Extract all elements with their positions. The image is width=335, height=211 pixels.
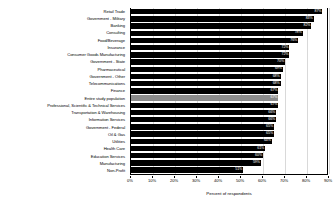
bar-value-label: 69% — [275, 68, 282, 72]
bar: 83% — [131, 16, 314, 21]
bar: 67% — [131, 88, 278, 93]
bar-row: 82% — [131, 23, 327, 28]
bar-row: 68% — [131, 81, 327, 86]
bar: 72% — [131, 45, 289, 50]
bar-value-label: 65% — [266, 132, 273, 136]
category-label: Oil & Gas — [0, 132, 127, 137]
bar-row: 78% — [131, 31, 327, 36]
category-label: Non-Profit — [0, 169, 127, 174]
x-axis: 0%10%20%30%40%50%60%70%80%90% — [130, 176, 328, 186]
category-label: Professional, Scientific & Technical Ser… — [0, 103, 127, 108]
bar-value-label: 64% — [264, 140, 271, 144]
x-axis-tick-label: 10% — [148, 179, 156, 183]
bar-row: 66% — [131, 117, 327, 122]
category-label: Government - Military — [0, 16, 127, 21]
bar: 68% — [131, 81, 281, 86]
bar-value-label: 67% — [270, 104, 277, 108]
bar: 87% — [131, 9, 322, 14]
bar: 67% — [131, 95, 278, 100]
x-axis-tick-label: 20% — [170, 179, 178, 183]
bar-row: 72% — [131, 52, 327, 57]
x-axis-title: Percent of respondents — [130, 191, 328, 196]
bar-rows: 87%83%82%78%76%72%72%70%69%68%68%67%67%6… — [131, 8, 327, 174]
bar: 70% — [131, 59, 285, 64]
bar-row: 87% — [131, 9, 327, 14]
category-label: Government - State — [0, 60, 127, 65]
bar-row: 66% — [131, 110, 327, 115]
category-label: Education Services — [0, 154, 127, 159]
bar-value-label: 78% — [295, 32, 302, 36]
category-label: Government - Federal — [0, 125, 127, 130]
bar-row: 65% — [131, 131, 327, 136]
bar-row: 67% — [131, 88, 327, 93]
bar-value-label: 82% — [303, 24, 310, 28]
category-label: Pharmaceutical — [0, 67, 127, 72]
bar-row: 69% — [131, 67, 327, 72]
category-label: Government - Other — [0, 74, 127, 79]
bar-value-label: 67% — [270, 89, 277, 93]
bar-row: 51% — [131, 167, 327, 172]
gridline — [329, 8, 330, 174]
category-label: Banking — [0, 24, 127, 29]
bar-value-label: 68% — [273, 82, 280, 86]
bar-value-label: 76% — [290, 39, 297, 43]
bar: 67% — [131, 103, 278, 108]
bar-value-label: 51% — [235, 168, 242, 172]
bar-value-label: 61% — [257, 147, 264, 151]
bar-value-label: 72% — [281, 53, 288, 57]
x-axis-tick-label: 80% — [302, 179, 310, 183]
bar-value-label: 66% — [268, 111, 275, 115]
bar-value-label: 72% — [281, 46, 288, 50]
x-axis-tick-label: 90% — [324, 179, 332, 183]
category-label: Transportation & Warehousing — [0, 111, 127, 116]
bar-value-label: 87% — [314, 10, 321, 14]
category-label: Finance — [0, 89, 127, 94]
category-label: Insurance — [0, 45, 127, 50]
bar-value-label: 68% — [273, 75, 280, 79]
bar: 65% — [131, 131, 274, 136]
bar-chart: Retail TradeGovernment - MilitaryBanking… — [0, 0, 335, 211]
bar-row: 61% — [131, 146, 327, 151]
bar: 72% — [131, 52, 289, 57]
plot-area: 87%83%82%78%76%72%72%70%69%68%68%67%67%6… — [130, 8, 328, 175]
category-label: Telecommunications — [0, 82, 127, 87]
bar: 60% — [131, 153, 263, 158]
bar-row: 72% — [131, 45, 327, 50]
bar-value-label: 60% — [255, 154, 262, 158]
bar-row: 83% — [131, 16, 327, 21]
bar-row: 67% — [131, 103, 327, 108]
bar: 51% — [131, 167, 243, 172]
category-axis-labels: Retail TradeGovernment - MilitaryBanking… — [0, 8, 127, 175]
x-axis-tick-label: 0% — [127, 179, 133, 183]
bar: 64% — [131, 139, 272, 144]
bar-row: 65% — [131, 124, 327, 129]
bar: 61% — [131, 146, 265, 151]
category-label: Consulting — [0, 31, 127, 36]
bar-row: 68% — [131, 74, 327, 79]
category-label: Entire study population — [0, 96, 127, 101]
bar-row: 67% — [131, 95, 327, 100]
x-axis-tick-label: 60% — [258, 179, 266, 183]
category-label: Manufacturing — [0, 161, 127, 166]
bar-value-label: 67% — [270, 96, 277, 100]
bar: 69% — [131, 67, 283, 72]
bar: 82% — [131, 23, 311, 28]
x-axis-tick-label: 30% — [192, 179, 200, 183]
bar-row: 70% — [131, 59, 327, 64]
bar-value-label: 65% — [266, 125, 273, 129]
bar: 66% — [131, 117, 276, 122]
x-axis-tick-label: 70% — [280, 179, 288, 183]
category-label: Utilities — [0, 140, 127, 145]
bar-row: 59% — [131, 160, 327, 165]
bar-row: 64% — [131, 139, 327, 144]
category-label: Information Services — [0, 118, 127, 123]
category-label: Food/Beverage — [0, 38, 127, 43]
category-label: Consumer Goods Manufacturing — [0, 53, 127, 58]
bar-value-label: 66% — [268, 118, 275, 122]
bar: 66% — [131, 110, 276, 115]
bar-value-label: 59% — [253, 161, 260, 165]
category-label: Health Care — [0, 147, 127, 152]
bar: 59% — [131, 160, 261, 165]
bar-value-label: 70% — [277, 60, 284, 64]
bar-row: 60% — [131, 153, 327, 158]
